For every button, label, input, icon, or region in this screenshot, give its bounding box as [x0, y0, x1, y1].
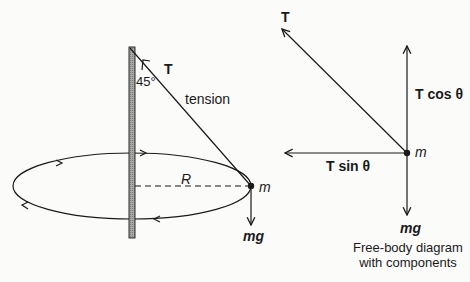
- radius-label: R: [181, 171, 191, 187]
- path-arrow-icon: [56, 160, 62, 166]
- path-arrow-icon: [22, 202, 28, 209]
- fbd-mass-label: m: [415, 144, 427, 160]
- fbd-tension-label: T: [281, 9, 290, 25]
- fbd-mass-point: [404, 150, 410, 156]
- angle-label: 45°: [136, 74, 156, 89]
- caption-line-2: with components: [358, 255, 457, 270]
- mass-label: m: [259, 179, 271, 195]
- vertical-pole: [129, 47, 135, 238]
- path-arrow-icon: [154, 216, 160, 222]
- string-line: [130, 48, 251, 186]
- tension-vector-label: T: [164, 61, 173, 77]
- conical-pendulum-diagram: 45° T tension R m mg T T cos θ T sin θ m…: [0, 0, 470, 282]
- free-body-diagram: T T cos θ T sin θ m mg Free-body diagram…: [281, 9, 463, 270]
- caption-line-1: Free-body diagram: [353, 240, 463, 255]
- horizontal-component-label: T sin θ: [326, 158, 370, 174]
- tension-word-label: tension: [185, 91, 230, 107]
- fbd-weight-label: mg: [400, 220, 421, 236]
- tension-arrow-icon: [142, 60, 150, 70]
- vertical-component-label: T cos θ: [415, 86, 463, 102]
- tension-vector: [282, 29, 407, 153]
- conical-pendulum: 45° T tension R m mg: [13, 47, 271, 244]
- weight-label: mg: [243, 228, 264, 244]
